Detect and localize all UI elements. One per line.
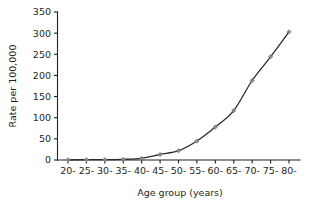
x-tick-label: 55- — [189, 165, 205, 176]
x-axis-title: Age group (years) — [137, 187, 223, 198]
y-tick-label: 0 — [45, 154, 51, 165]
y-tick-label: 100 — [33, 112, 51, 123]
y-tick-label: 300 — [33, 28, 51, 39]
line-chart-svg: 050100150200250300350 20-25-30-35-40-45-… — [0, 0, 312, 204]
y-axis-title: Rate per 100,000 — [7, 45, 18, 128]
chart-figure: 050100150200250300350 20-25-30-35-40-45-… — [0, 0, 312, 204]
x-tick-label: 20- — [60, 165, 76, 176]
x-tick-label: 45- — [152, 165, 168, 176]
x-tick-label: 40- — [134, 165, 150, 176]
x-tick-label: 35- — [115, 165, 131, 176]
y-tick-label: 150 — [33, 91, 51, 102]
x-tick-label: 50- — [171, 165, 187, 176]
y-tick-label: 50 — [39, 133, 51, 144]
y-tick-label: 250 — [33, 49, 51, 60]
x-tick-label: 70- — [244, 165, 260, 176]
y-tick-label: 200 — [33, 70, 51, 81]
x-tick-label: 65- — [226, 165, 242, 176]
x-tick-label: 75- — [263, 165, 279, 176]
x-tick-label: 25- — [79, 165, 95, 176]
x-tick-label: 60- — [208, 165, 224, 176]
y-tick-label: 350 — [33, 6, 51, 17]
x-tick-label: 30- — [97, 165, 113, 176]
x-tick-label: 80- — [281, 165, 297, 176]
